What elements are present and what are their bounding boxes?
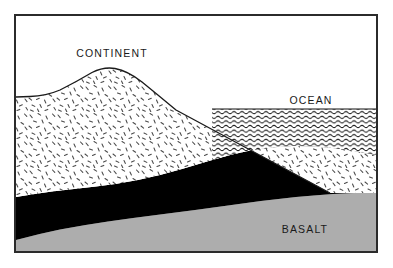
ocean-label: OCEAN: [289, 94, 332, 106]
basalt-label: BASALT: [282, 223, 328, 235]
cross-section-figure: CONTINENT OCEAN BASALT: [0, 0, 393, 268]
geologic-cross-section-diagram: CONTINENT OCEAN BASALT: [0, 0, 393, 268]
continent-label: CONTINENT: [76, 47, 148, 59]
